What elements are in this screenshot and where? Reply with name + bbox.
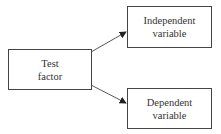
arrow-to-independent bbox=[91, 32, 126, 52]
node-independent-variable: Independent variable bbox=[127, 6, 212, 48]
node-label-line: factor bbox=[38, 70, 62, 83]
node-dependent-variable: Dependent variable bbox=[127, 88, 212, 129]
node-label-line: Test bbox=[41, 57, 58, 70]
node-test-factor: Test factor bbox=[8, 49, 92, 90]
node-label-line: variable bbox=[153, 109, 187, 122]
node-label-line: Dependent bbox=[147, 96, 192, 109]
node-label-line: variable bbox=[153, 27, 187, 40]
node-label-line: Independent bbox=[144, 14, 196, 27]
arrow-to-dependent bbox=[91, 85, 126, 103]
